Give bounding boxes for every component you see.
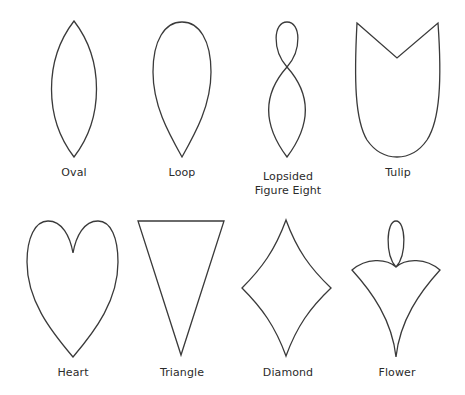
tulip-shape (356, 23, 440, 157)
heart-label: Heart (57, 366, 88, 379)
flower-label: Flower (379, 366, 416, 379)
triangle-shape (138, 221, 224, 355)
loop-shape (153, 22, 211, 157)
loop-label: Loop (169, 166, 196, 179)
diamond-label: Diamond (263, 366, 313, 379)
shapes-canvas (0, 0, 465, 395)
flower-shape (352, 221, 440, 357)
diamond-shape (242, 220, 331, 356)
lopsided-figure-eight-shape (269, 22, 306, 157)
shape-diagram: Oval Loop Lopsided Figure Eight Tulip He… (0, 0, 465, 395)
oval-label: Oval (61, 166, 86, 179)
oval-shape (52, 21, 97, 157)
tulip-label: Tulip (385, 166, 411, 179)
triangle-label: Triangle (160, 366, 204, 379)
heart-shape (27, 221, 118, 357)
lopsided-figure-eight-label-line1: Lopsided (263, 170, 313, 183)
lopsided-figure-eight-label-line2: Figure Eight (255, 184, 322, 197)
